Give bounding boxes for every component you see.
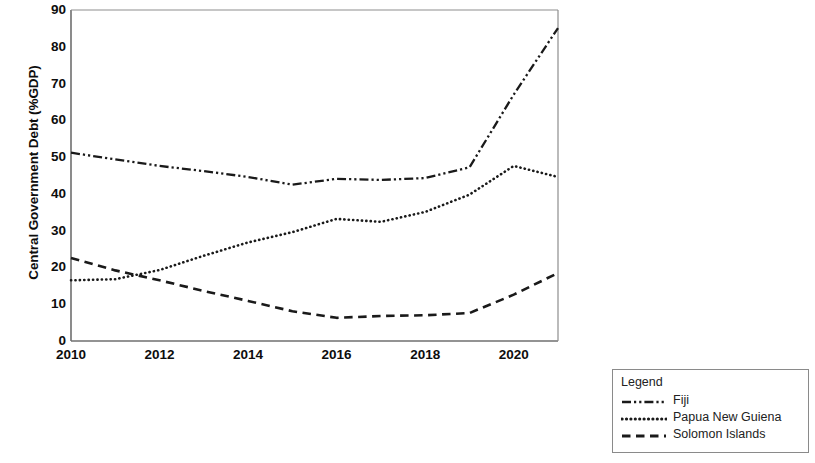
legend-entry: Solomon Islands — [621, 426, 808, 443]
legend-entry: Papua New Guiena — [621, 409, 808, 426]
legend-entry-label: Papua New Guiena — [673, 411, 781, 424]
legend-title: Legend — [621, 374, 808, 391]
legend-entry: Fiji — [621, 392, 808, 409]
series-line — [71, 28, 558, 185]
plot-svg — [0, 0, 600, 400]
legend-entry-label: Solomon Islands — [673, 428, 765, 441]
series-line — [71, 166, 558, 280]
legend-entries: FijiPapua New GuienaSolomon Islands — [621, 392, 808, 443]
chart-figure: Central Government Debt (%GDP) 010203040… — [0, 0, 600, 400]
series-line — [71, 258, 558, 318]
legend-line-swatch — [621, 394, 667, 406]
plot-area — [0, 0, 600, 400]
chart-legend: Legend FijiPapua New GuienaSolomon Islan… — [612, 369, 809, 453]
legend-line-swatch — [621, 428, 667, 440]
legend-line-swatch — [621, 411, 667, 423]
legend-entry-label: Fiji — [673, 394, 689, 407]
